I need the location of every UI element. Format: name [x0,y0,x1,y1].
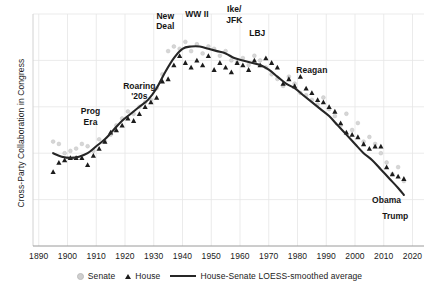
annotation-trump: Trump [382,211,408,222]
house-data-point [338,120,343,125]
house-data-point [131,118,136,123]
senate-data-point [379,151,383,155]
house-data-point [350,132,355,137]
senate-data-point [166,49,170,53]
legend-label-house: House [135,271,160,281]
senate-data-point [97,137,101,141]
house-data-point [166,76,171,81]
senate-data-point [189,49,193,53]
senate-series-points [51,40,406,183]
chart-figure: Cross-Party Collaboration in Congress 18… [0,0,439,288]
house-data-point [189,65,194,70]
senate-data-point [247,63,251,67]
house-data-point [269,60,274,65]
senate-data-point [57,142,61,146]
house-data-point [91,153,96,158]
senate-data-point [126,110,130,114]
house-data-point [51,169,56,174]
house-data-point [137,111,142,116]
line-marker-icon [170,275,196,277]
legend-item-loess: House-Senate LOESS-smoothed average [170,271,362,281]
loess-trend-path [53,46,404,195]
senate-data-point [218,54,222,58]
house-data-point [240,62,245,67]
annotation-prog-era: Prog Era [81,106,101,127]
house-data-point [332,109,337,114]
house-data-point [85,162,90,167]
house-data-point [212,67,217,72]
house-data-point [315,97,320,102]
senate-data-point [350,128,354,132]
senate-data-point [63,151,67,155]
annotation-obama: Obama [372,194,401,205]
senate-data-point [321,96,325,100]
house-data-point [229,69,234,74]
chart-legend: Senate House House-Senate LOESS-smoothed… [0,268,439,284]
house-data-point [321,100,326,105]
triangle-marker-icon [125,274,131,279]
senate-data-point [183,40,187,44]
annotation-new-deal: New Deal [156,10,174,31]
house-data-point [396,174,401,179]
senate-data-point [333,114,337,118]
senate-data-point [367,135,371,139]
circle-marker-icon [77,273,84,280]
axis-group [33,14,424,246]
legend-label-loess: House-Senate LOESS-smoothed average [200,271,362,281]
senate-data-point [396,165,400,169]
annotation-ike-jfk: Ike/ JFK [226,4,242,25]
house-data-point [246,67,251,72]
senate-data-point [201,52,205,56]
annotation-ww2: WW II [185,9,208,20]
house-data-point [309,90,314,95]
senate-data-point [229,59,233,63]
annotation-reagan: Reagan [296,64,327,75]
gridlines-group [33,14,424,246]
house-data-point [401,176,406,181]
legend-item-senate: Senate [77,271,116,281]
senate-data-point [356,121,360,125]
house-data-point [183,60,188,65]
house-data-point [367,146,372,151]
legend-item-house: House [125,271,160,281]
annotation-roaring-20s: Roaring '20s [123,80,155,101]
house-data-point [56,160,61,165]
legend-label-senate: Senate [88,271,116,281]
house-data-point [378,144,383,149]
house-data-point [223,65,228,70]
house-series-points [51,53,407,181]
senate-data-point [68,149,72,153]
senate-data-point [86,144,90,148]
chart-plot-svg [0,0,439,288]
house-data-point [384,165,389,170]
house-data-point [263,55,268,60]
house-data-point [206,53,211,58]
loess-trend-line [53,46,404,195]
house-data-point [355,134,360,139]
house-data-point [200,62,205,67]
senate-data-point [172,45,176,49]
house-data-point [304,86,309,91]
house-data-point [217,60,222,65]
house-data-point [275,65,280,70]
senate-data-point [51,140,55,144]
x-tick-label: 2020 [393,251,433,261]
senate-data-point [258,59,262,63]
senate-data-point [252,54,256,58]
senate-data-point [80,142,84,146]
senate-data-point [74,147,78,151]
senate-data-point [344,112,348,116]
senate-data-point [385,161,389,165]
annotation-lbj: LBJ [249,27,265,38]
y-axis-label: Cross-Party Collaboration in Congress [14,18,28,248]
house-data-point [171,62,176,67]
